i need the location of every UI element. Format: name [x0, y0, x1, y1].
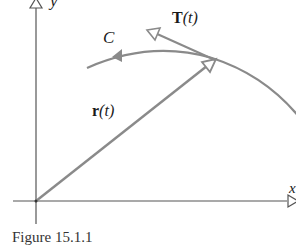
position-vector-label: r(t)	[92, 102, 114, 120]
tangent-vector-argument: (t)	[183, 9, 198, 26]
position-vector-r	[36, 62, 212, 201]
curve-c-label: C	[103, 28, 114, 48]
tangent-vector-symbol: T	[172, 9, 183, 26]
tangent-vector-arrowhead	[147, 28, 160, 40]
tangent-vector-label: T(t)	[172, 9, 198, 27]
y-axis-label: y	[50, 0, 58, 11]
figure-caption: Figure 15.1.1	[12, 229, 92, 246]
tangent-vector-t	[155, 33, 215, 60]
origin-point	[35, 200, 38, 203]
curve-direction-arrowhead	[112, 49, 122, 62]
position-vector-argument: (t)	[99, 102, 114, 119]
y-axis-arrowhead	[30, 0, 42, 8]
position-vector-arrowhead	[202, 59, 216, 72]
x-axis-label: x	[289, 180, 296, 197]
curve-c	[87, 51, 296, 118]
